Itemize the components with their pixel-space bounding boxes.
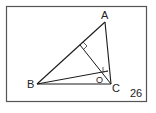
side-ab: [37, 22, 105, 84]
triangle-diagram: A B C O 26: [0, 0, 156, 113]
right-angle-mark-ac: [103, 67, 108, 72]
orthocenter-label-o: O: [96, 75, 103, 85]
figure-number: 26: [130, 87, 142, 99]
right-angle-mark-ab: [83, 42, 87, 49]
side-ac: [105, 22, 111, 84]
vertex-label-c: C: [112, 82, 120, 94]
vertex-label-b: B: [27, 78, 34, 90]
vertex-label-a: A: [101, 9, 109, 21]
